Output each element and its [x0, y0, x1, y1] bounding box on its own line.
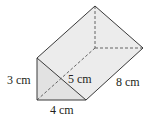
height-label: 3 cm — [7, 74, 31, 86]
triangular-prism-diagram — [0, 0, 151, 121]
length-label: 8 cm — [116, 76, 140, 88]
hypotenuse-label: 5 cm — [68, 73, 92, 85]
base-label: 4 cm — [50, 104, 74, 116]
